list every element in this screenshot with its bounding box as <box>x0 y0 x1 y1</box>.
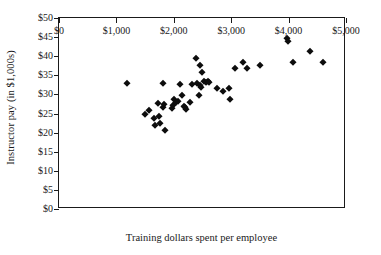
data-point <box>257 62 263 68</box>
data-point <box>161 100 167 106</box>
y-tick-label: $0 <box>43 204 53 214</box>
y-tick-label: $40 <box>38 51 53 61</box>
y-tick-label: $35 <box>38 70 53 80</box>
data-point <box>232 65 238 71</box>
data-point <box>239 59 245 65</box>
y-tick-label: $25 <box>38 109 53 119</box>
data-point <box>289 59 295 65</box>
data-point <box>244 65 250 71</box>
data-points-layer <box>59 18 344 207</box>
data-point <box>320 59 326 65</box>
data-point <box>197 62 203 68</box>
y-tick-mark <box>54 209 59 210</box>
y-tick-label: $15 <box>38 147 53 157</box>
data-point <box>219 88 225 94</box>
y-tick-label: $5 <box>43 185 53 195</box>
data-point <box>192 54 198 60</box>
data-point <box>176 80 182 86</box>
scatter-chart-figure: Instructor pay (in $1,000s) $0$5$10$15$2… <box>0 0 381 255</box>
data-point <box>226 84 232 90</box>
y-tick-label: $10 <box>38 166 53 176</box>
y-tick-label: $50 <box>38 13 53 23</box>
data-point <box>161 126 167 132</box>
data-point <box>196 92 202 98</box>
data-point <box>285 38 291 44</box>
data-point <box>175 97 181 103</box>
data-point <box>187 99 193 105</box>
y-tick-label: $30 <box>38 89 53 99</box>
data-point <box>183 106 189 112</box>
data-point <box>179 92 185 98</box>
data-point <box>206 79 212 85</box>
data-point <box>157 119 163 125</box>
data-point <box>160 80 166 86</box>
data-point <box>307 48 313 54</box>
y-tick-label: $20 <box>38 128 53 138</box>
y-axis-title: Instructor pay (in $1,000s) <box>0 0 20 215</box>
plot-area: $0$5$10$15$20$25$30$35$40$45$50 $0$1,000… <box>58 17 345 208</box>
data-point <box>227 96 233 102</box>
y-axis-title-text: Instructor pay (in $1,000s) <box>5 50 16 165</box>
x-axis-title: Training dollars spent per employee <box>58 232 345 243</box>
data-point <box>199 69 205 75</box>
x-tick-mark <box>346 18 347 23</box>
data-point <box>123 80 129 86</box>
data-point <box>198 84 204 90</box>
y-tick-label: $45 <box>38 32 53 42</box>
